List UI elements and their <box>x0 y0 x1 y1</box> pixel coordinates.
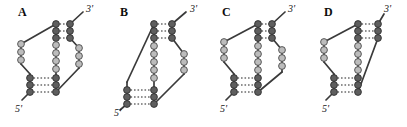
unpaired-nucleotide <box>18 41 83 73</box>
three-prime-label-b: 3' <box>190 4 197 14</box>
five-prime-label-c: 5' <box>220 104 227 114</box>
panel-a: A 5' 3' <box>0 0 102 127</box>
panel-letter-c: C <box>222 6 231 18</box>
panel-letter-b: B <box>120 6 128 18</box>
panel-b: B 5' 3' <box>100 0 202 127</box>
five-prime-label-b: 5' <box>114 108 121 118</box>
paired-nucleotide <box>27 21 74 96</box>
five-prime-label-d: 5' <box>322 104 329 114</box>
three-prime-label-c: 3' <box>288 4 295 14</box>
three-prime-label-d: 3' <box>384 4 391 14</box>
five-prime-label-a: 5' <box>15 104 22 114</box>
panel-letter-a: A <box>18 6 27 18</box>
panel-d-structure <box>304 0 407 127</box>
three-prime-label-a: 3' <box>86 4 93 14</box>
base-pair-bond <box>30 78 56 92</box>
panel-c-structure <box>202 0 304 127</box>
panel-letter-d: D <box>324 6 333 18</box>
rna-pseudoknot-figure: A 5' 3' <box>0 0 407 127</box>
unpaired-nucleotide <box>221 39 286 74</box>
unpaired-nucleotide <box>321 39 362 74</box>
paired-nucleotide <box>331 21 382 96</box>
panel-c: C 5' 3' <box>202 0 304 127</box>
panel-d: D 5' 3' <box>304 0 406 127</box>
base-pair-bond <box>127 90 154 104</box>
